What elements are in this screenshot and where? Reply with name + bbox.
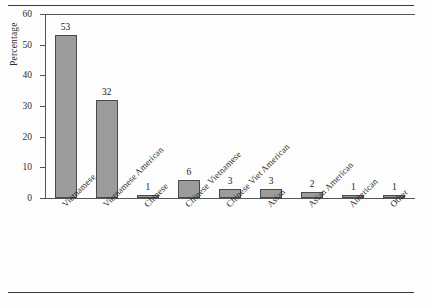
bar-group[interactable]: 2 [301,14,323,198]
bar-value-label: 3 [228,176,233,187]
bar-value-label: 32 [102,87,112,98]
y-axis-tick-label: 60 [23,8,33,21]
y-axis-tick-label: 40 [23,69,33,82]
bar-value-label: 1 [351,182,356,193]
figure-page: Percentage 0102030405060 53321633211 Vie… [0,0,431,306]
y-axis-tick: 60 [40,14,45,15]
y-axis-tick: 10 [40,167,45,168]
bar-group[interactable]: 53 [55,14,77,198]
bar[interactable] [55,35,77,198]
y-axis-tick: 0 [40,198,45,199]
bar-value-label: 53 [61,22,71,33]
bar-value-label: 2 [310,179,315,190]
y-axis-tick-label: 50 [23,39,33,52]
y-axis-title: Percentage [9,52,19,66]
y-axis-tick-label: 0 [27,192,32,205]
y-axis-tick-label: 20 [23,131,33,144]
bar-group[interactable]: 6 [178,14,200,198]
y-axis-tick: 50 [40,45,45,46]
page-rule-top [8,5,414,6]
y-axis-tick-label: 30 [23,100,33,113]
y-axis-tick: 20 [40,137,45,138]
bar-group[interactable]: 1 [383,14,405,198]
bar[interactable] [96,100,118,198]
bar-group[interactable]: 32 [96,14,118,198]
bar-value-label: 1 [145,182,150,193]
bar-value-label: 6 [187,167,192,178]
y-axis-tick-label: 10 [23,161,33,174]
page-rule-bottom [8,292,414,293]
y-axis-line [45,14,46,198]
y-axis-tick: 40 [40,75,45,76]
bar-value-label: 3 [269,176,274,187]
bar-value-label: 1 [392,182,397,193]
y-axis-tick: 30 [40,106,45,107]
